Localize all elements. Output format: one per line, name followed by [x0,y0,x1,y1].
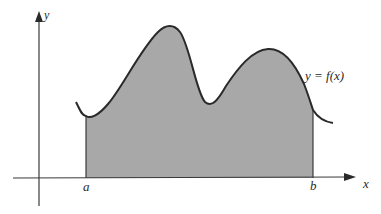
x-axis-label: x [362,176,369,191]
y-axis-arrowhead-icon [35,11,43,22]
shaded-area-region [86,26,313,178]
area-under-curve-diagram: y x a b y = f(x) [0,0,381,214]
y-axis-label: y [43,8,50,22]
upper-bound-label: b [310,178,317,193]
lower-bound-label: a [83,179,90,194]
x-axis-arrowhead-icon [344,173,356,181]
curve-label: y = f(x) [303,68,344,83]
